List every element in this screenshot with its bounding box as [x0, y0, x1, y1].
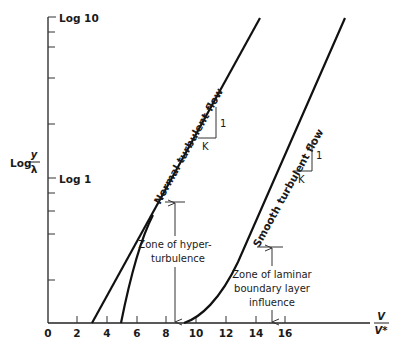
y-axis-label: Log y λ — [10, 149, 40, 175]
laminar-zone-label-line1: Zone of laminar — [232, 269, 312, 280]
x-tick-label: 14 — [249, 327, 264, 339]
y-tick-label-log10: Log 10 — [59, 12, 99, 24]
x-tick-label: 2 — [73, 327, 80, 339]
x-tick-label: 6 — [133, 327, 140, 339]
y-tick-label-log1: Log 1 — [59, 173, 91, 185]
hyperturbulence-curve — [121, 215, 153, 323]
y-axis — [48, 17, 56, 323]
x-tick-label: 12 — [219, 327, 234, 339]
slope-run-label: K — [202, 141, 209, 152]
x-tick-label: 10 — [189, 327, 204, 339]
x-tick-labels: 0 2 4 6 8 10 12 14 16 — [44, 327, 292, 339]
x-axis-label-numerator: V — [377, 311, 386, 322]
x-tick-label: 16 — [278, 327, 293, 339]
slope-run-label: K — [298, 174, 305, 185]
hyperturbulence-zone-label-line1: Zone of hyper- — [138, 239, 212, 250]
normal-turbulent-flow-label: Normal turbulent flow — [151, 86, 225, 206]
x-tick-label: 4 — [103, 327, 110, 339]
hyperturbulence-zone-label-line2: turbulence — [151, 253, 205, 264]
y-axis-label-numerator: y — [31, 149, 38, 160]
x-tick-label: 8 — [162, 327, 169, 339]
slope-rise-label: 1 — [220, 118, 226, 129]
laminar-zone-label-line3: influence — [249, 297, 295, 308]
x-axis-label: V V* — [374, 311, 389, 336]
smooth-turbulent-flow-label: Smooth turbulent flow — [250, 126, 325, 249]
slope-rise-label: 1 — [316, 150, 322, 161]
y-axis-label-denominator: λ — [31, 163, 38, 175]
velocity-profile-diagram: Log 10 Log 1 Log y λ 0 2 4 6 8 10 12 14 … — [0, 0, 400, 355]
laminar-zone-label-line2: boundary layer — [234, 283, 311, 294]
x-axis-label-denominator: V* — [375, 325, 389, 336]
x-tick-label: 0 — [44, 327, 51, 339]
y-axis-label-log: Log — [10, 157, 31, 169]
